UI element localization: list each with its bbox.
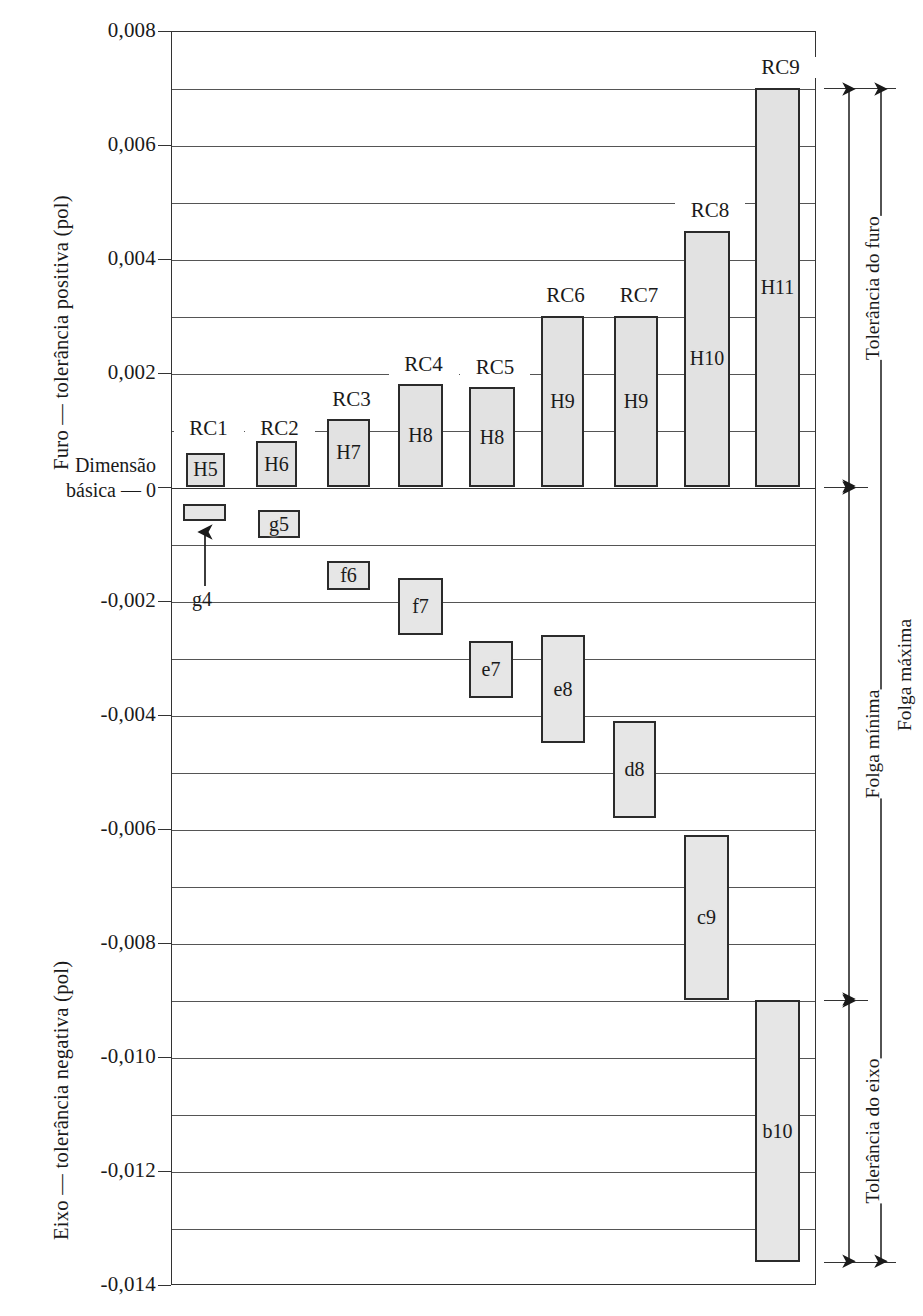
tolerance-fit-chart: Furo — tolerância positiva (pol) Eixo — … xyxy=(0,0,923,1316)
gridline xyxy=(172,1172,815,1173)
fit-label-RC5: RC5 xyxy=(460,357,530,378)
hole-bar-H8-RC5: H8 xyxy=(469,387,515,487)
y-axis-tick xyxy=(158,715,171,716)
hole-bar-H8-RC4: H8 xyxy=(398,384,443,487)
bar-label: H9 xyxy=(624,390,648,413)
bar-label: c9 xyxy=(697,906,716,929)
gridline xyxy=(172,602,815,603)
y-axis-tick-label: -0,002 xyxy=(14,590,156,611)
dimension-extension-line xyxy=(824,487,868,488)
caption-shaft-tolerance: Tolerância do eixo xyxy=(860,1059,886,1204)
y-axis-tick-label: -0,008 xyxy=(14,932,156,953)
fit-label-RC1: RC1 xyxy=(174,418,244,439)
shaft-bar-f6: f6 xyxy=(327,561,370,590)
gridline xyxy=(172,89,815,90)
bar-label: f7 xyxy=(412,595,429,618)
y-axis-tick xyxy=(158,943,171,944)
basic-dimension-label: Dimensão básica — 0 xyxy=(10,453,156,503)
bar-label: H5 xyxy=(193,458,217,481)
y-axis-tick-label: -0,012 xyxy=(14,1160,156,1181)
bar-label: H6 xyxy=(264,453,288,476)
y-axis-tick xyxy=(158,1285,171,1286)
dimension-extension-line xyxy=(824,1000,868,1001)
gridline xyxy=(172,1058,815,1059)
hole-bar-H9-RC7: H9 xyxy=(614,316,658,487)
zero-gridline xyxy=(172,488,815,489)
shaft-bar-b10: b10 xyxy=(755,1000,800,1262)
y-axis-title-negative: Eixo — tolerância negativa (pol) xyxy=(50,961,73,1240)
bar-label: H7 xyxy=(336,441,360,464)
caption-hole-tolerance: Tolerância do furo xyxy=(860,216,886,360)
bar-label: b10 xyxy=(763,1120,793,1143)
caption-max-clearance: Folga máxima xyxy=(892,619,918,731)
gridline xyxy=(172,1001,815,1002)
gridline xyxy=(172,716,815,717)
hole-bar-H6-RC2: H6 xyxy=(256,441,297,487)
bar-label: e8 xyxy=(554,678,573,701)
basic-dimension-line1: Dimensão xyxy=(10,453,156,478)
y-axis-tick xyxy=(158,259,171,260)
gridline xyxy=(172,1115,815,1116)
shaft-bar-c9: c9 xyxy=(684,835,729,1000)
y-axis-tick xyxy=(158,829,171,830)
bar-label: d8 xyxy=(625,758,645,781)
fit-label-RC9: RC9 xyxy=(746,57,816,78)
bar-label: g5 xyxy=(269,513,289,536)
y-axis-tick-label: 0,002 xyxy=(14,362,156,383)
basic-dimension-line2: básica — 0 xyxy=(10,478,156,503)
y-axis-tick-label: 0,008 xyxy=(14,20,156,41)
y-axis-tick xyxy=(158,373,171,374)
hole-bar-H11-RC9: H11 xyxy=(755,88,800,487)
y-axis-tick-label: 0,006 xyxy=(14,134,156,155)
gridline xyxy=(172,146,815,147)
gridline xyxy=(172,773,815,774)
bar-label: H8 xyxy=(480,426,504,449)
gridline xyxy=(172,545,815,546)
y-axis-tick xyxy=(158,145,171,146)
bar-label: H8 xyxy=(408,424,432,447)
shaft-bar-f7: f7 xyxy=(398,578,443,635)
shaft-bar-g4: g4 xyxy=(183,504,226,521)
y-axis-tick-label: -0,006 xyxy=(14,818,156,839)
fit-label-RC2: RC2 xyxy=(245,418,315,439)
gridline xyxy=(172,830,815,831)
hole-bar-H10-RC8: H10 xyxy=(684,231,730,488)
shaft-bar-e8: e8 xyxy=(541,635,585,743)
fit-label-RC8: RC8 xyxy=(675,200,745,221)
fit-label-RC7: RC7 xyxy=(604,285,674,306)
y-axis-title-positive: Furo — tolerância positiva (pol) xyxy=(50,195,73,470)
hole-bar-H9-RC6: H9 xyxy=(541,316,584,487)
y-axis-tick xyxy=(158,1057,171,1058)
y-axis-tick-label: -0,010 xyxy=(14,1046,156,1067)
g4-callout-label: g4 xyxy=(192,588,212,611)
fit-label-RC6: RC6 xyxy=(531,285,601,306)
y-axis-tick-zero xyxy=(158,487,171,488)
y-axis-tick-label: -0,014 xyxy=(14,1274,156,1295)
dimension-extension-line xyxy=(824,88,896,89)
shaft-bar-e7: e7 xyxy=(469,641,513,698)
y-axis-tick xyxy=(158,1171,171,1172)
hole-bar-H5-RC1: H5 xyxy=(186,453,225,487)
fit-label-RC4: RC4 xyxy=(389,354,459,375)
dimension-extension-line xyxy=(824,1262,896,1263)
bar-label: H9 xyxy=(550,390,574,413)
caption-min-clearance: Folga mínima xyxy=(860,689,886,798)
y-axis-tick-label: 0,004 xyxy=(14,248,156,269)
bar-label: f6 xyxy=(340,564,357,587)
y-axis-tick xyxy=(158,31,171,32)
y-axis-tick-label: -0,004 xyxy=(14,704,156,725)
fit-label-RC3: RC3 xyxy=(317,389,387,410)
shaft-bar-d8: d8 xyxy=(613,721,656,818)
bar-label: e7 xyxy=(482,658,501,681)
bar-label: H11 xyxy=(761,276,795,299)
gridline xyxy=(172,1229,815,1230)
y-axis-tick xyxy=(158,601,171,602)
shaft-bar-g5: g5 xyxy=(258,510,300,539)
hole-bar-H7-RC3: H7 xyxy=(327,419,370,487)
bar-label: H10 xyxy=(690,347,724,370)
